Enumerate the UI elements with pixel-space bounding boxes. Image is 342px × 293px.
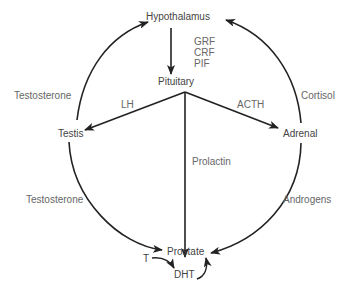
label-androgens: Androgens [283, 195, 331, 205]
label-crf: CRF [194, 47, 215, 58]
label-lh: LH [121, 100, 134, 110]
arrow-t-to-dht [152, 258, 174, 268]
label-cortisol: Cortisol [301, 91, 335, 101]
node-pituitary: Pituitary [158, 77, 194, 87]
arrow-pituitary-to-adrenal [185, 92, 278, 128]
node-testis: Testis [58, 129, 84, 139]
label-releasing-factors: GRF CRF PIF [194, 36, 215, 69]
label-prolactin: Prolactin [192, 157, 231, 167]
node-prostate: Prostate [167, 247, 204, 257]
label-grf: GRF [194, 36, 215, 47]
label-acth: ACTH [237, 100, 264, 110]
label-testosterone-upper: Testosterone [14, 91, 71, 101]
label-testosterone-lower: Testosterone [26, 195, 83, 205]
node-dht: DHT [174, 270, 195, 280]
arrow-pituitary-to-testis [85, 92, 185, 130]
label-pif: PIF [194, 58, 215, 69]
node-hypothalamus: Hypothalamus [146, 12, 210, 22]
arrow-testis-to-hypothalamus [77, 22, 148, 120]
node-adrenal: Adrenal [283, 129, 317, 139]
arrow-dht-to-prostate [197, 258, 207, 279]
node-t: T [143, 254, 149, 264]
